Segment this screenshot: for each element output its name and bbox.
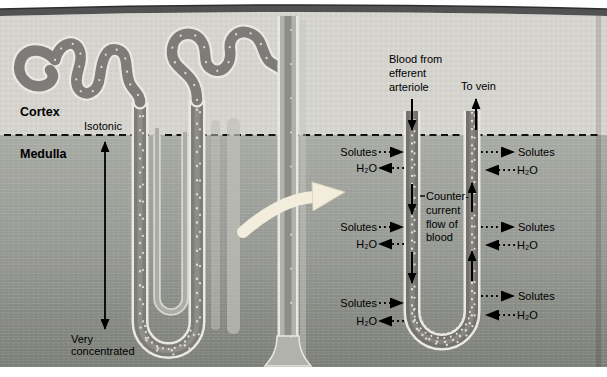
very-concentrated-line: concentrated <box>71 346 135 358</box>
blood-from-line: Blood from <box>389 52 442 66</box>
solutes-label: Solutes <box>518 221 555 234</box>
water-label: H₂O <box>517 164 538 177</box>
countercurrent-line: flow of <box>426 218 469 232</box>
vasa-recta-vessel <box>211 120 220 330</box>
to-vein-label: To vein <box>461 80 496 93</box>
countercurrent-line: Counter- <box>426 190 469 204</box>
countercurrent-line: current <box>426 204 469 218</box>
countercurrent-flow-label: Counter- current flow of blood <box>426 190 469 245</box>
blood-from-line: arteriole <box>389 80 442 94</box>
isotonic-label: Isotonic <box>84 120 122 133</box>
blood-from-line: efferent <box>389 66 442 80</box>
water-label: H₂O <box>321 315 377 328</box>
water-label: H₂O <box>321 162 377 175</box>
blood-from-efferent-arteriole-label: Blood from efferent arteriole <box>389 52 442 94</box>
solutes-label: Solutes <box>518 146 555 159</box>
solutes-label: Solutes <box>518 290 555 303</box>
right-edge-shade <box>596 14 601 367</box>
vein-vessel <box>300 20 306 360</box>
cortex-label: Cortex <box>20 106 60 119</box>
diagram-canvas <box>0 0 607 377</box>
water-label: H₂O <box>517 239 538 252</box>
water-label: H₂O <box>517 309 538 322</box>
solutes-label: Solutes <box>316 221 377 234</box>
figure-root: Cortex Isotonic Medulla Very concentrate… <box>0 0 607 377</box>
solutes-label: Solutes <box>316 297 377 310</box>
very-concentrated-label: Very concentrated <box>71 334 135 357</box>
medulla-label: Medulla <box>20 148 67 161</box>
solutes-label: Solutes <box>316 146 377 159</box>
water-label: H₂O <box>321 238 377 251</box>
very-concentrated-line: Very <box>71 334 135 346</box>
countercurrent-line: blood <box>426 231 469 245</box>
vasa-recta-vessel <box>227 118 240 334</box>
